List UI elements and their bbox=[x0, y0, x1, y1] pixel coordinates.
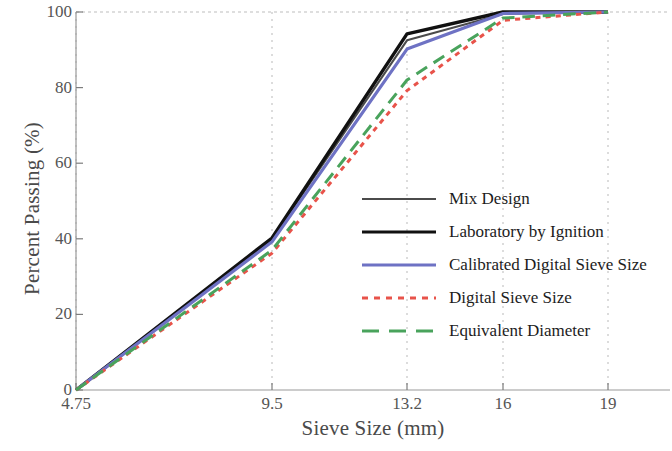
x-axis-tick-label: 16 bbox=[463, 395, 543, 412]
tick-label-text: 40 bbox=[28, 230, 72, 247]
legend-label: Mix Design bbox=[449, 189, 530, 209]
x-axis-tick-label: 19 bbox=[568, 395, 648, 412]
x-axis-tick-label: 4.75 bbox=[36, 395, 116, 412]
legend-line-sample bbox=[362, 296, 436, 299]
legend-line-sample bbox=[362, 263, 436, 266]
x-axis-title: Sieve Size (mm) bbox=[76, 416, 670, 441]
legend: Mix DesignLaboratory by IgnitionCalibrat… bbox=[362, 182, 672, 347]
legend-color-swatch bbox=[362, 258, 436, 272]
y-axis-title: Percent Passing (%) bbox=[20, 89, 45, 329]
tick-label-text: 100 bbox=[28, 3, 72, 20]
legend-item[interactable]: Equivalent Diameter bbox=[362, 314, 672, 347]
sieve-analysis-chart: Percent Passing (%) Sieve Size (mm) 0204… bbox=[0, 0, 672, 451]
legend-label: Laboratory by Ignition bbox=[449, 222, 604, 242]
legend-color-swatch bbox=[362, 192, 436, 206]
legend-line-sample bbox=[362, 329, 436, 332]
legend-line-sample bbox=[362, 198, 436, 200]
legend-item[interactable]: Mix Design bbox=[362, 182, 672, 215]
legend-item[interactable]: Laboratory by Ignition bbox=[362, 215, 672, 248]
legend-label: Equivalent Diameter bbox=[449, 321, 590, 341]
tick-label-text: 20 bbox=[28, 305, 72, 322]
tick-label-text: 60 bbox=[28, 154, 72, 171]
legend-color-swatch bbox=[362, 291, 436, 305]
x-axis-tick-label: 9.5 bbox=[232, 395, 312, 412]
legend-item[interactable]: Calibrated Digital Sieve Size bbox=[362, 248, 672, 281]
x-axis-tick-label: 13.2 bbox=[367, 395, 447, 412]
legend-label: Calibrated Digital Sieve Size bbox=[449, 255, 647, 275]
legend-color-swatch bbox=[362, 324, 436, 338]
legend-label: Digital Sieve Size bbox=[449, 288, 572, 308]
legend-item[interactable]: Digital Sieve Size bbox=[362, 281, 672, 314]
tick-label-text: 80 bbox=[28, 79, 72, 96]
legend-line-sample bbox=[362, 230, 436, 233]
legend-color-swatch bbox=[362, 225, 436, 239]
